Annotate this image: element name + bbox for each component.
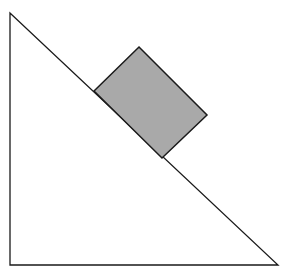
incline-diagram bbox=[0, 0, 290, 268]
